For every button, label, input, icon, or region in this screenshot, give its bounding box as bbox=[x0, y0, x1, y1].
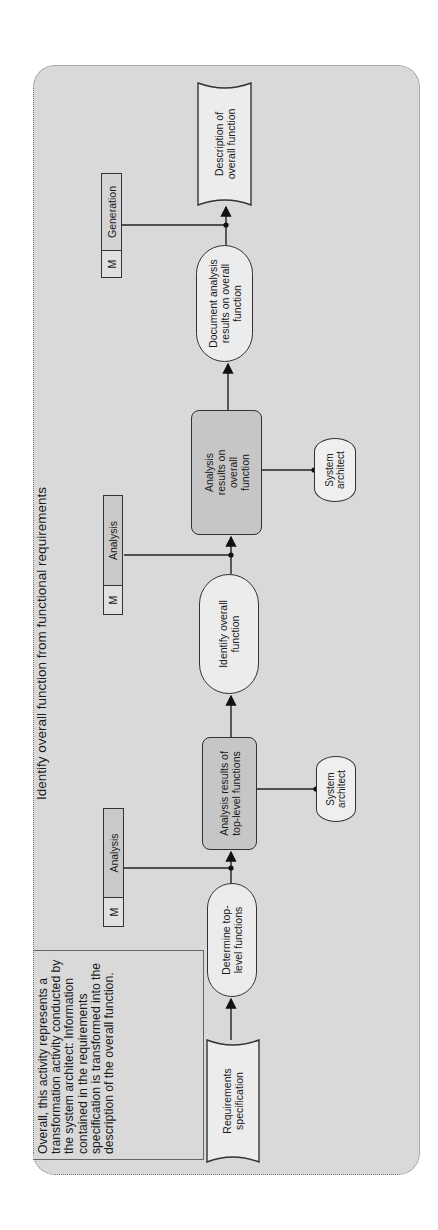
document-analysis-results-activity: Document analysis results on overall fun… bbox=[196, 245, 253, 362]
method-label: Analysis bbox=[104, 809, 123, 897]
method-marker: M bbox=[104, 585, 122, 614]
role-system-architect-1: System architect bbox=[316, 756, 356, 822]
identify-overall-function-activity: Identify overall function bbox=[199, 574, 259, 694]
analysis-results-top-level-information: Analysis results of top-level functions bbox=[202, 737, 257, 850]
method-analysis-2: M Analysis bbox=[103, 495, 123, 615]
method-label: Generation bbox=[102, 174, 121, 250]
description-overall-function-document: Description of overall function bbox=[198, 87, 251, 201]
determine-top-level-functions-activity: Determine top-level functions bbox=[207, 883, 257, 997]
method-generation: M Generation bbox=[101, 173, 122, 278]
role-system-architect-2: System architect bbox=[314, 438, 356, 502]
analysis-results-overall-information: Analysis results on overall function bbox=[191, 410, 262, 535]
method-label: Analysis bbox=[104, 496, 122, 585]
method-analysis-1: M Analysis bbox=[103, 808, 124, 927]
method-marker: M bbox=[104, 897, 123, 926]
diagram-canvas: Identify overall function from functiona… bbox=[0, 0, 438, 1230]
requirements-specification-document: Requirements specification bbox=[207, 1044, 259, 1158]
method-marker: M bbox=[102, 250, 121, 277]
